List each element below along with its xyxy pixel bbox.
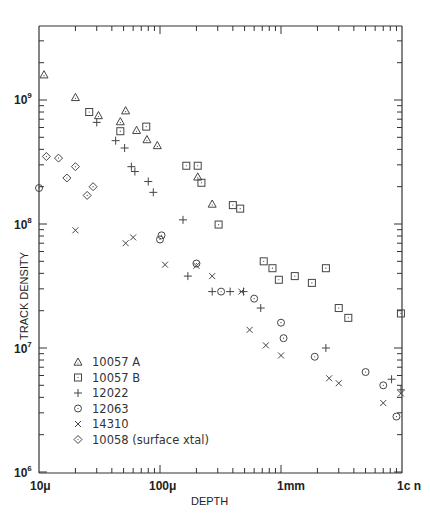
- triangle-marker-dot: [197, 177, 198, 178]
- plus-marker: [121, 144, 129, 152]
- legend-item: 10058 (surface xtal): [74, 433, 209, 447]
- triangle-marker: [153, 141, 161, 148]
- x-marker: [123, 240, 129, 246]
- square-marker-dot: [120, 131, 121, 132]
- legend-label: 12022: [92, 386, 129, 400]
- triangle-marker: [143, 136, 151, 143]
- square-icon-dot: [77, 377, 78, 378]
- legend-label: 10057 A: [92, 355, 140, 369]
- plus-marker: [93, 118, 101, 126]
- x-tick-label-1cm: 1c n: [397, 479, 421, 493]
- square-marker-dot: [311, 282, 312, 283]
- square-marker-dot: [197, 165, 198, 166]
- x-tick-labels: 10μ 100μ 1mm 1c n: [30, 479, 421, 493]
- square-marker-dot: [146, 126, 147, 127]
- x-marker: [209, 273, 215, 279]
- x-tick-label-100um: 100μ: [149, 479, 176, 493]
- x-marker: [247, 327, 253, 333]
- circle-marker-dot: [254, 298, 255, 299]
- x-marker: [72, 227, 78, 233]
- triangle-marker: [71, 93, 79, 100]
- diamond-marker-dot: [75, 166, 76, 167]
- square-marker-dot: [218, 224, 219, 225]
- triangle-icon: [74, 358, 82, 365]
- circle-marker-dot: [196, 263, 197, 264]
- triangle-marker-dot: [125, 111, 126, 112]
- legend-item: 14310: [75, 417, 129, 431]
- plus-marker: [149, 188, 157, 196]
- x-marker: [278, 352, 284, 358]
- series-10057-a: [40, 71, 216, 208]
- x-tick-label-1mm: 1mm: [277, 479, 305, 493]
- plus-marker: [397, 386, 405, 394]
- triangle-marker-dot: [136, 131, 137, 132]
- circle-marker-dot: [280, 322, 281, 323]
- series-12063: [36, 185, 400, 421]
- plus-marker: [322, 344, 330, 352]
- square-marker-dot: [400, 313, 401, 314]
- series-10058-surface-xtal-: [42, 153, 97, 200]
- x-marker: [130, 234, 136, 240]
- triangle-marker-dot: [157, 146, 158, 147]
- plus-marker: [144, 178, 152, 186]
- y-axis-title: TRACK DENSITY: [18, 251, 30, 340]
- x-icon: [75, 421, 81, 427]
- y-tick-label-1e7: 107: [14, 340, 32, 356]
- plus-marker: [112, 137, 120, 145]
- legend: 10057 A10057 B12022120631431010058 (surf…: [74, 355, 209, 447]
- diamond-marker-dot: [58, 157, 59, 158]
- triangle-marker: [116, 118, 124, 125]
- legend-item: 12063: [75, 402, 129, 416]
- triangle-marker: [40, 71, 48, 78]
- triangle-icon-dot: [77, 362, 78, 363]
- diamond-marker-dot: [46, 156, 47, 157]
- circle-marker-dot: [161, 235, 162, 236]
- square-marker-dot: [272, 268, 273, 269]
- legend-item: 10057 B: [75, 371, 141, 385]
- x-axis-title: DEPTH: [191, 495, 228, 507]
- legend-item: 10057 A: [74, 355, 140, 369]
- triangle-marker: [122, 107, 130, 114]
- circle-marker-dot: [38, 187, 39, 188]
- diamond-marker-dot: [66, 177, 67, 178]
- plus-marker: [257, 304, 265, 312]
- legend-label: 10057 B: [92, 371, 140, 385]
- x-marker: [336, 380, 342, 386]
- legend-label: 12063: [92, 402, 129, 416]
- plus-marker: [184, 272, 192, 280]
- triangle-marker-dot: [212, 204, 213, 205]
- diamond-icon-dot: [77, 439, 78, 440]
- x-marker: [326, 375, 332, 381]
- plus-marker: [388, 375, 396, 383]
- circle-marker-dot: [365, 371, 366, 372]
- triangle-marker: [208, 200, 216, 207]
- data-points: [36, 71, 405, 420]
- triangle-marker-dot: [120, 122, 121, 123]
- square-marker-dot: [232, 205, 233, 206]
- triangle-marker-dot: [43, 75, 44, 76]
- legend-item: 12022: [74, 386, 129, 400]
- diamond-marker-dot: [93, 186, 94, 187]
- series-10057-b: [86, 109, 405, 322]
- square-marker-dot: [240, 208, 241, 209]
- square-marker-dot: [186, 165, 187, 166]
- square-marker-dot: [263, 261, 264, 262]
- circle-marker-dot: [221, 291, 222, 292]
- triangle-marker-dot: [98, 116, 99, 117]
- circle-marker-dot: [283, 338, 284, 339]
- x-tick-label-10um: 10μ: [30, 479, 51, 493]
- square-marker-dot: [338, 307, 339, 308]
- circle-marker-dot: [383, 385, 384, 386]
- plus-icon: [74, 389, 82, 397]
- triangle-marker: [94, 111, 102, 118]
- plus-marker: [127, 163, 135, 171]
- plus-marker: [131, 168, 139, 176]
- square-marker-dot: [89, 111, 90, 112]
- plus-marker: [179, 216, 187, 224]
- square-marker-dot: [278, 279, 279, 280]
- square-marker-dot: [294, 276, 295, 277]
- square-marker-dot: [348, 317, 349, 318]
- y-tick-label-1e8: 108: [14, 216, 32, 232]
- triangle-marker-dot: [75, 98, 76, 99]
- plus-marker: [208, 288, 216, 296]
